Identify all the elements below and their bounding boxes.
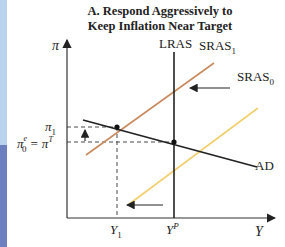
pi0e-label: πe0 = πT	[17, 134, 53, 154]
yp-label: YP	[166, 221, 179, 237]
y1-label: Y1	[110, 222, 122, 240]
sras1-label: SRAS1	[199, 38, 236, 56]
lras-label: LRAS	[159, 36, 192, 51]
sras1-curve	[86, 63, 214, 155]
sras0-curve	[128, 108, 258, 205]
x-axis-label: Y	[255, 224, 265, 239]
sras0-label: SRAS0	[237, 69, 275, 87]
ad-curve	[83, 120, 257, 167]
ad-label: AD	[255, 158, 274, 173]
as-ad-diagram: π Y LRAS SRAS1 SRAS0 AD π1 πe0 = πT Y1 Y…	[0, 0, 285, 247]
y-axis-label: π	[52, 38, 60, 53]
equilibrium-point-0	[171, 139, 176, 144]
equilibrium-point-1	[114, 124, 119, 129]
